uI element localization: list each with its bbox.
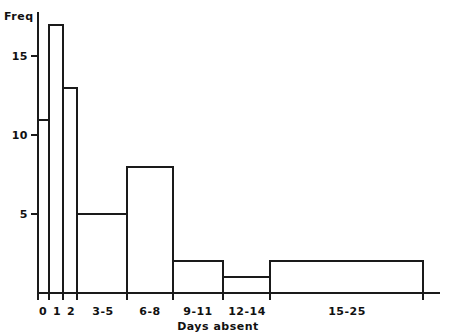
y-tick-label-15: 15 — [12, 50, 28, 63]
bar-0 — [38, 120, 49, 293]
y-axis-title: Freq — [4, 10, 34, 23]
bar-3-5 — [77, 214, 127, 293]
y-tick-marks — [31, 56, 38, 214]
y-tick-label-10: 10 — [12, 129, 28, 142]
bar-12-14 — [223, 277, 270, 293]
histogram-plot: 15 10 5 Freq 0 1 — [0, 0, 450, 332]
x-tick-label-12-14: 12-14 — [228, 305, 266, 318]
bar-1 — [49, 25, 63, 293]
histogram-figure: 15 10 5 Freq 0 1 — [0, 0, 450, 332]
x-tick-label-9-11: 9-11 — [183, 305, 213, 318]
bar-9-11 — [173, 261, 223, 293]
x-tick-label-6-8: 6-8 — [139, 305, 160, 318]
x-tick-label-0: 0 — [39, 305, 47, 318]
x-tick-marks — [38, 293, 423, 300]
y-tick-label-5: 5 — [20, 208, 28, 221]
bar-15-25 — [270, 261, 423, 293]
x-tick-label-3-5: 3-5 — [92, 305, 113, 318]
x-axis-title: Days absent — [177, 320, 259, 332]
x-tick-label-2: 2 — [67, 305, 75, 318]
histogram-bars — [38, 25, 423, 293]
x-tick-label-1: 1 — [53, 305, 61, 318]
bar-6-8 — [127, 167, 173, 293]
bar-2 — [63, 88, 77, 293]
x-tick-label-15-25: 15-25 — [328, 305, 366, 318]
